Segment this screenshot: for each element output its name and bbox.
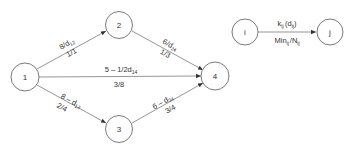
edge-1-4 bbox=[39, 76, 201, 77]
legend-bottom-label: Minij/Nij bbox=[274, 36, 299, 46]
node-4: 4 bbox=[201, 62, 229, 90]
svg-text:2: 2 bbox=[117, 21, 122, 30]
legend-top-label: kij(dij) bbox=[278, 19, 297, 29]
svg-text:5 – 1/2d14: 5 – 1/2d14 bbox=[105, 65, 138, 75]
svg-text:j: j bbox=[328, 28, 331, 37]
svg-text:i: i bbox=[244, 28, 246, 37]
svg-text:3/8: 3/8 bbox=[114, 80, 124, 89]
legend-node-i: i bbox=[232, 19, 258, 45]
edge-label-2-4: 6/d24 1/3 bbox=[156, 37, 179, 61]
legend: i j kij(dij) Minij/Nij bbox=[232, 19, 343, 46]
node-2: 2 bbox=[106, 12, 133, 39]
svg-text:4: 4 bbox=[213, 72, 218, 81]
edge-label-3-4: 6 – d34 3/4 bbox=[151, 92, 180, 120]
edge-label-1-3: 8 – d13 2/4 bbox=[55, 92, 84, 119]
node-1: 1 bbox=[11, 63, 39, 91]
node-3: 3 bbox=[106, 116, 133, 143]
svg-text:1: 1 bbox=[23, 73, 28, 82]
network-diagram: 8/d12 1/1 6/d24 1/3 5 – 1/2d14 3/8 8 – d… bbox=[0, 0, 351, 147]
svg-text:3: 3 bbox=[117, 125, 122, 134]
legend-node-j: j bbox=[317, 19, 343, 45]
edge-label-1-2: 8/d12 1/1 bbox=[58, 36, 81, 60]
